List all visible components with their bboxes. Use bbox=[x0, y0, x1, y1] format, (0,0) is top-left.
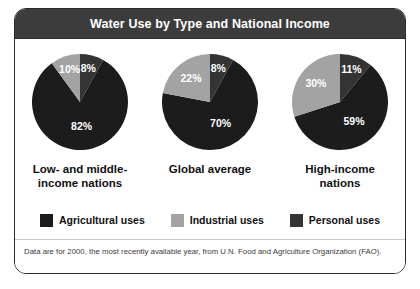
category-label-line: income nations bbox=[38, 177, 122, 189]
page-title: Water Use by Type and National Income bbox=[90, 17, 330, 31]
figure-body: 8%82%10% 8%70%22% 11%59%30% Low- and mid… bbox=[15, 39, 405, 274]
pie-slice-value-label: 70% bbox=[210, 117, 232, 129]
pie-wrap: 8%82%10% bbox=[30, 52, 130, 152]
pie-slice-value-label: 8% bbox=[211, 62, 227, 74]
pie-svg-0: 8%82%10% bbox=[30, 52, 130, 152]
legend-item-personal: Personal uses bbox=[290, 214, 380, 227]
footnote-divider bbox=[15, 239, 405, 240]
category-label-low-middle-income: Low- and middle-income nations bbox=[15, 163, 145, 205]
pie-slice-value-label: 8% bbox=[81, 62, 97, 74]
pie-chart-high-income: 11%59%30% bbox=[275, 39, 405, 165]
pie-slice-value-label: 59% bbox=[344, 115, 366, 127]
category-label-line: High-income bbox=[305, 163, 375, 175]
legend-item-agricultural: Agricultural uses bbox=[40, 214, 145, 227]
legend-label: Agricultural uses bbox=[59, 214, 145, 226]
category-labels-row: Low- and middle-income nations Global av… bbox=[15, 163, 405, 205]
legend-swatch-icon bbox=[290, 214, 303, 227]
pie-svg-1: 8%70%22% bbox=[160, 52, 260, 152]
pie-slice-value-label: 11% bbox=[341, 63, 362, 75]
pie-slice-value-label: 30% bbox=[305, 77, 327, 89]
category-label-line: Global average bbox=[169, 163, 251, 175]
pie-slice-value-label: 82% bbox=[71, 120, 93, 132]
category-label-line: nations bbox=[320, 177, 361, 189]
legend-swatch-icon bbox=[40, 214, 53, 227]
legend-swatch-icon bbox=[171, 214, 184, 227]
pie-slice-value-label: 22% bbox=[181, 72, 203, 84]
pie-svg-2: 11%59%30% bbox=[290, 52, 390, 152]
source-footnote: Data are for 2000, the most recently ava… bbox=[24, 246, 400, 257]
pie-chart-low-middle-income: 8%82%10% bbox=[15, 39, 145, 165]
pie-wrap: 11%59%30% bbox=[290, 52, 390, 152]
pie-slice-value-label: 10% bbox=[59, 63, 81, 75]
category-label-line: Low- and middle- bbox=[33, 163, 128, 175]
pie-chart-global-average: 8%70%22% bbox=[145, 39, 275, 165]
category-label-high-income: High-incomenations bbox=[275, 163, 405, 205]
legend: Agricultural uses Industrial uses Person… bbox=[15, 209, 405, 231]
category-label-global-average: Global average bbox=[145, 163, 275, 205]
infographic-panel: Water Use by Type and National Income 8%… bbox=[14, 8, 406, 274]
pie-wrap: 8%70%22% bbox=[160, 52, 260, 152]
figure-title-bar: Water Use by Type and National Income bbox=[15, 9, 405, 39]
legend-label: Personal uses bbox=[309, 214, 380, 226]
pie-charts-row: 8%82%10% 8%70%22% 11%59%30% bbox=[15, 39, 405, 165]
legend-item-industrial: Industrial uses bbox=[171, 214, 264, 227]
legend-label: Industrial uses bbox=[190, 214, 264, 226]
